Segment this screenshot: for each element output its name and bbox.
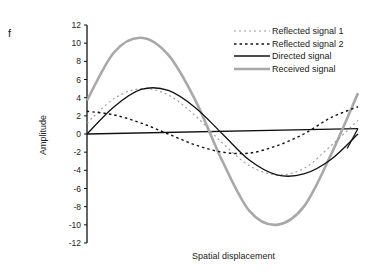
y-tick-label: 10 [72, 38, 82, 48]
y-tick-label: -12 [69, 238, 82, 248]
legend-item-received: Received signal [234, 63, 344, 76]
y-tick-label: 12 [72, 20, 82, 30]
legend-label: Directed signal [272, 50, 332, 63]
y-tick-label: -4 [73, 165, 81, 175]
dotted-line-icon [234, 28, 270, 34]
legend: Reflected signal 1 Reflected signal 2 Di… [234, 25, 344, 75]
series-reflected-signal-2 [87, 107, 358, 154]
y-tick-label: -6 [73, 184, 81, 194]
legend-item-reflected-1: Reflected signal 1 [234, 25, 344, 38]
solid-line-icon [234, 53, 270, 59]
legend-label: Reflected signal 1 [272, 25, 344, 38]
y-tick-label: -8 [73, 202, 81, 212]
y-tick-label: 4 [76, 93, 81, 103]
dashed-line-icon [234, 41, 270, 47]
directed-signal-end-segment [347, 129, 358, 149]
legend-item-directed: Directed signal [234, 50, 344, 63]
legend-label: Reflected signal 2 [272, 38, 344, 51]
y-tick-label: 2 [76, 111, 81, 121]
y-tick-label: 6 [76, 75, 81, 85]
legend-item-reflected-2: Reflected signal 2 [234, 38, 344, 51]
thick-gray-line-icon [234, 66, 270, 72]
legend-label: Received signal [272, 63, 336, 76]
y-tick-label: -2 [73, 147, 81, 157]
y-tick-label: 8 [76, 56, 81, 66]
y-tick-label: 0 [76, 129, 81, 139]
y-tick-label: -10 [69, 220, 82, 230]
